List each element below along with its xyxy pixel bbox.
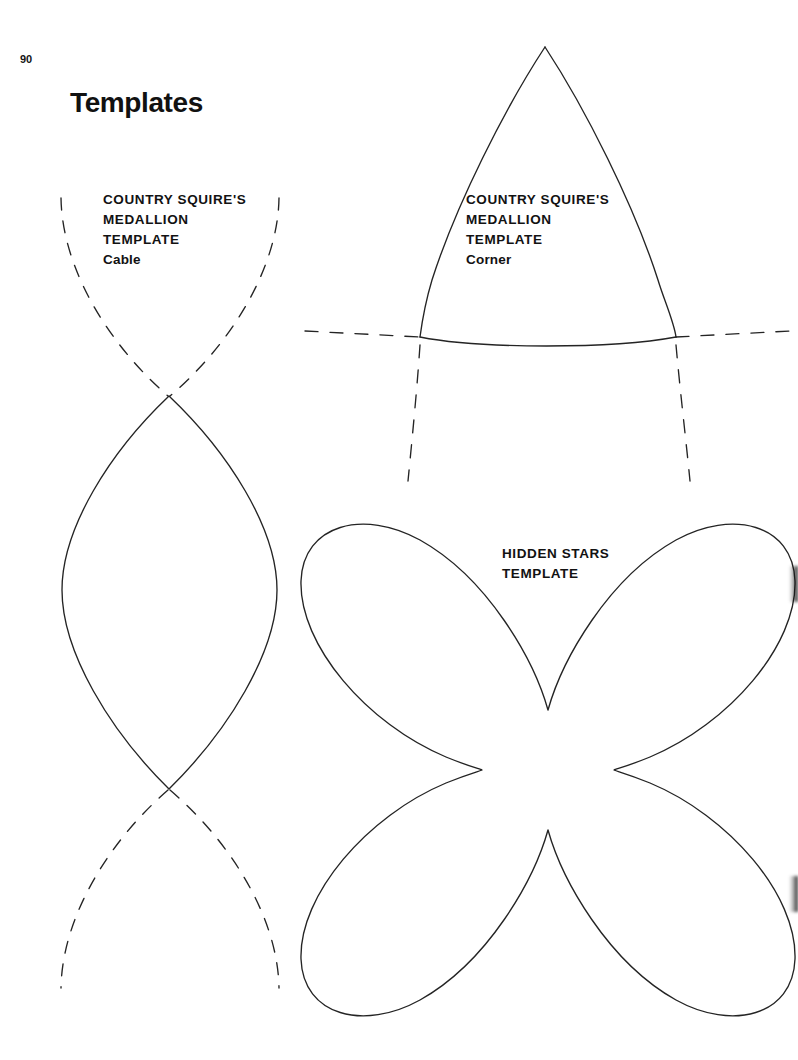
corner-label-line-1: COUNTRY SQUIRE'S [466, 190, 609, 210]
cable-template-shape [61, 198, 279, 988]
cable-label-line-2: MEDALLION [103, 210, 246, 230]
page-title: Templates [70, 88, 203, 119]
corner-dashed-side-right [676, 345, 690, 481]
cable-dashed-arc-bottom-left [61, 790, 168, 988]
corner-label-line-2: MEDALLION [466, 210, 609, 230]
corner-dashed-baseline-right [676, 331, 790, 337]
cable-label-variant: Cable [103, 250, 246, 270]
cable-template-label: COUNTRY SQUIRE'S MEDALLION TEMPLATE Cabl… [103, 190, 246, 270]
stars-label-line-1: HIDDEN STARS [502, 544, 609, 564]
hidden-stars-template-shape [301, 524, 795, 1016]
cable-solid-lens [62, 396, 277, 789]
hidden-stars-four-petal [301, 524, 795, 1016]
corner-dashed-baseline-left [305, 331, 420, 337]
corner-label-variant: Corner [466, 250, 609, 270]
cable-dashed-arc-bottom-right [170, 790, 279, 988]
corner-label-line-3: TEMPLATE [466, 230, 609, 250]
scan-edge-smudge-bottom [789, 876, 798, 912]
template-diagrams [0, 0, 798, 1060]
stars-label-line-2: TEMPLATE [502, 564, 609, 584]
corner-dashed-side-left [408, 345, 420, 481]
cable-label-line-1: COUNTRY SQUIRE'S [103, 190, 246, 210]
scan-edge-smudge-top [789, 566, 798, 602]
hidden-stars-template-label: HIDDEN STARS TEMPLATE [502, 544, 609, 584]
page-canvas: 90 Templates COUNTRY SQUIRE'S MEDALLION … [0, 0, 798, 1060]
page-number: 90 [20, 54, 32, 65]
cable-label-line-3: TEMPLATE [103, 230, 246, 250]
corner-template-label: COUNTRY SQUIRE'S MEDALLION TEMPLATE Corn… [466, 190, 609, 270]
corner-solid-base-curve [420, 337, 676, 346]
